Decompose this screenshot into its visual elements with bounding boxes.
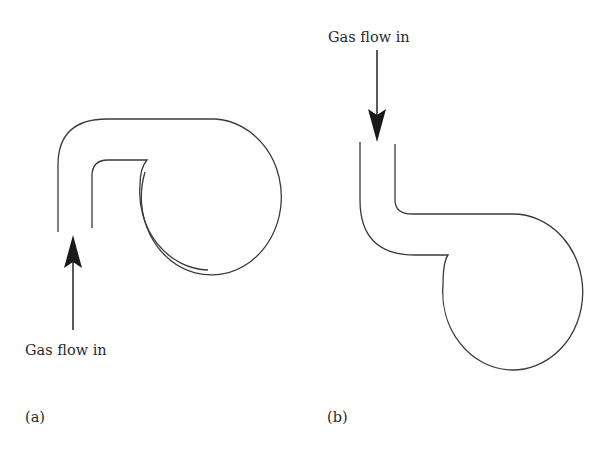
panel-b-flow-label: Gas flow in bbox=[328, 29, 410, 45]
panel-b-caption: (b) bbox=[327, 409, 348, 425]
panel-b-inner-wall bbox=[395, 144, 512, 214]
panel-a-flow-label: Gas flow in bbox=[25, 342, 107, 358]
panel-b: Gas flow in (b) bbox=[327, 29, 583, 425]
panel-a-caption: (a) bbox=[25, 409, 45, 425]
panel-b-flow-arrow-icon bbox=[368, 50, 386, 142]
figure-canvas: Gas flow in (a) Gas flow in (b) bbox=[0, 0, 612, 453]
panel-b-outer-wall bbox=[360, 142, 583, 370]
panel-a-inner-wall bbox=[92, 160, 208, 270]
panel-a: Gas flow in (a) bbox=[25, 119, 281, 425]
panel-a-flow-arrow-icon bbox=[64, 235, 82, 330]
